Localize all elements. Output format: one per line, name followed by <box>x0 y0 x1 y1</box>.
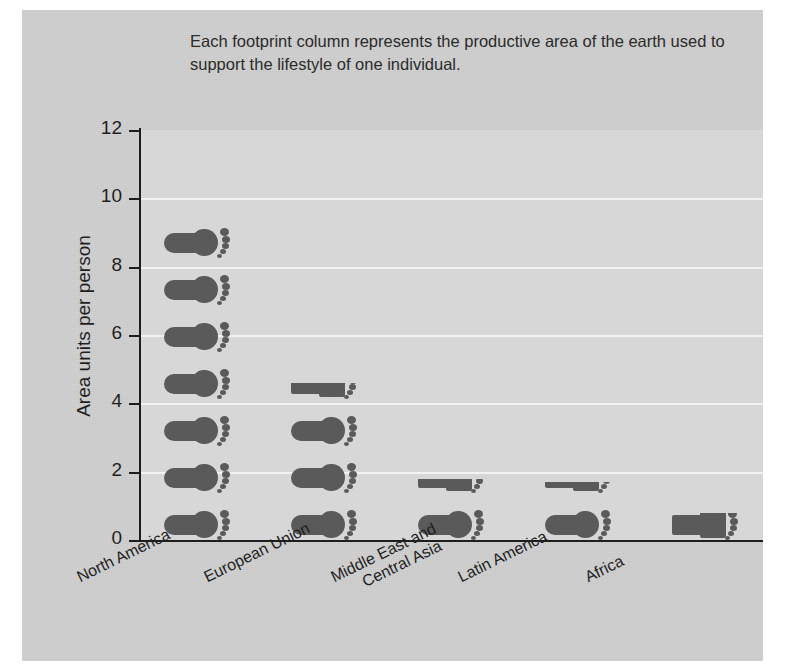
footprint-toe <box>347 510 356 518</box>
footprint-toe <box>344 536 349 540</box>
footprint-toe <box>222 330 230 337</box>
footprint-toe <box>222 424 230 431</box>
y-axis-tick-label: 0 <box>62 527 122 549</box>
footprint-column <box>289 130 363 540</box>
y-axis-tick <box>129 472 140 474</box>
footprint-toe <box>220 531 226 536</box>
footprint-column <box>670 130 744 540</box>
y-axis-tick-label: 8 <box>62 254 122 276</box>
figure-caption: Each footprint column represents the pro… <box>190 30 730 77</box>
footprint-toe <box>474 484 480 489</box>
footprint-toe <box>222 518 230 525</box>
footprint-toe <box>603 518 611 525</box>
y-axis-tick-label: 6 <box>62 322 122 344</box>
footprint-toe <box>220 463 229 471</box>
y-axis-tick-label: 2 <box>62 459 122 481</box>
footprint-icon <box>162 275 236 305</box>
footprint-ball <box>319 464 345 491</box>
footprint-icon <box>162 416 236 446</box>
figure-panel: Each footprint column represents the pro… <box>22 10 763 661</box>
footprint-toe <box>220 369 229 377</box>
footprint-toe <box>220 416 229 424</box>
footprint-toe <box>344 395 349 399</box>
footprint-toe <box>349 424 357 431</box>
footprint-toe <box>217 442 222 446</box>
footprint-toe <box>217 395 222 399</box>
y-axis-tick <box>129 267 140 269</box>
footprint-toe <box>220 510 229 518</box>
footprint-toe <box>217 254 222 258</box>
footprint-toe <box>601 510 610 518</box>
footprint-toe <box>220 484 226 489</box>
footprint-icon <box>289 383 363 399</box>
footprint-toe <box>474 510 483 518</box>
footprint-ball <box>573 511 599 538</box>
footprint-toe <box>474 531 480 536</box>
footprint-toe <box>347 531 353 536</box>
footprint-icon <box>289 416 363 446</box>
footprint-ball <box>319 511 345 538</box>
footprint-icon <box>162 369 236 399</box>
footprint-toe <box>344 442 349 446</box>
y-axis-tick-label: 10 <box>62 185 122 207</box>
x-axis-label-line: Africa <box>582 552 626 585</box>
footprint-toe <box>217 348 222 352</box>
y-axis-tick-label: 12 <box>62 117 122 139</box>
footprint-toe <box>220 296 226 301</box>
x-axis-line <box>139 540 763 542</box>
footprint-column <box>543 130 617 540</box>
y-axis-tick <box>129 130 140 132</box>
footprint-icon <box>543 482 617 493</box>
footprint-toe <box>217 301 222 305</box>
footprint-toe <box>220 322 229 330</box>
footprint-ball <box>319 383 345 397</box>
footprint-ball <box>446 479 472 492</box>
footprint-toe <box>220 343 226 348</box>
footprint-toe <box>476 518 484 525</box>
footprint-toe <box>222 471 230 478</box>
footprint-toe <box>728 531 734 536</box>
footprint-toe <box>220 249 226 254</box>
y-axis-tick <box>129 335 140 337</box>
footprint-icon <box>543 510 617 540</box>
footprint-toe <box>347 390 353 395</box>
footprint-icon <box>162 322 236 352</box>
footprint-ball <box>319 417 345 444</box>
footprint-toe <box>220 275 229 283</box>
footprint-ball <box>192 276 218 303</box>
footprint-icon <box>289 463 363 493</box>
y-axis-tick <box>129 403 140 405</box>
footprint-ball <box>192 370 218 397</box>
footprint-toe <box>598 489 603 493</box>
footprint-toe <box>347 437 353 442</box>
footprint-icon <box>162 463 236 493</box>
footprint-toe <box>471 489 476 493</box>
footprint-icon <box>162 510 236 540</box>
footprint-icon <box>162 228 236 258</box>
footprint-toe <box>725 536 730 540</box>
footprint-toe <box>349 471 357 478</box>
footprint-toe <box>220 437 226 442</box>
footprint-ball <box>573 482 599 491</box>
footprint-ball <box>192 511 218 538</box>
footprint-toe <box>598 536 603 540</box>
footprint-toe <box>471 536 476 540</box>
footprint-icon <box>416 479 490 494</box>
footprint-toe <box>347 484 353 489</box>
footprint-ball <box>700 513 726 538</box>
footprint-ball <box>446 511 472 538</box>
footprint-toe <box>220 390 226 395</box>
footprint-toe <box>601 531 607 536</box>
footprint-toe <box>730 518 738 525</box>
footprint-toe <box>222 377 230 384</box>
footprint-toe <box>347 463 356 471</box>
y-axis-tick <box>129 198 140 200</box>
footprint-ball <box>192 417 218 444</box>
footprint-ball <box>192 323 218 350</box>
footprint-toe <box>222 283 230 290</box>
footprint-column <box>162 130 236 540</box>
footprint-toe <box>220 228 229 236</box>
footprint-ball <box>192 464 218 491</box>
x-axis-label: Africa <box>582 552 627 586</box>
footprint-ball <box>192 229 218 256</box>
